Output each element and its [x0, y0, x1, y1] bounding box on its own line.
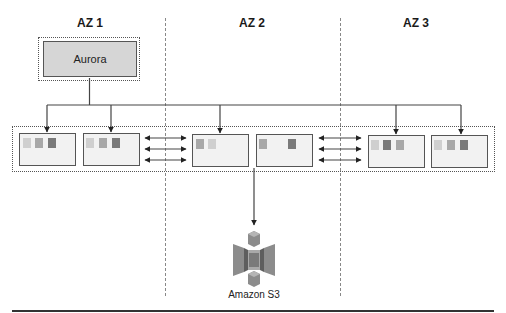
- bottom-rule: [12, 310, 494, 312]
- s3-bucket-icon: [232, 230, 276, 288]
- s3-label: Amazon S3: [214, 289, 294, 300]
